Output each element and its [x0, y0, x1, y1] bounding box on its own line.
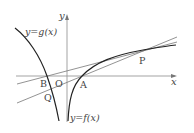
origin-label: O — [55, 78, 63, 89]
y-axis-label: y — [58, 10, 65, 21]
point-B-label: B — [40, 78, 47, 89]
point-P-label: P — [139, 55, 146, 66]
curves — [15, 28, 176, 121]
math-diagram: y x O B A Q P y=g(x) y=f(x) — [0, 0, 194, 133]
labels: y x O B A Q P y=g(x) y=f(x) — [24, 10, 177, 123]
x-axis-label: x — [171, 76, 177, 87]
point-A-label: A — [79, 79, 87, 90]
curve-f-label: y=f(x) — [69, 112, 100, 123]
lines — [17, 37, 177, 103]
curve-g-label: y=g(x) — [24, 26, 57, 37]
y-axis-arrow-icon — [65, 14, 69, 20]
point-Q-label: Q — [44, 92, 52, 103]
tangent-line-at-P — [17, 37, 177, 103]
